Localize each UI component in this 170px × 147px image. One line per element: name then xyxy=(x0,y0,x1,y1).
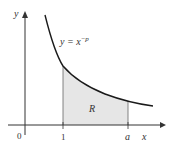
curve-label: y = x−p xyxy=(59,35,89,47)
curve-label-base: y = x xyxy=(59,36,81,47)
tick-label-1: 1 xyxy=(61,132,66,142)
area-under-curve-diagram: y x 0 1 a R y = x−p xyxy=(0,0,170,147)
y-axis-label: y xyxy=(13,8,19,19)
x-axis-label: x xyxy=(141,131,147,142)
x-axis-arrow-icon xyxy=(160,122,166,128)
origin-label: 0 xyxy=(17,131,22,141)
region-label: R xyxy=(88,103,95,114)
curve-label-exponent: −p xyxy=(81,35,90,43)
y-axis-arrow-icon xyxy=(22,11,28,18)
tick-label-a: a xyxy=(125,131,130,142)
